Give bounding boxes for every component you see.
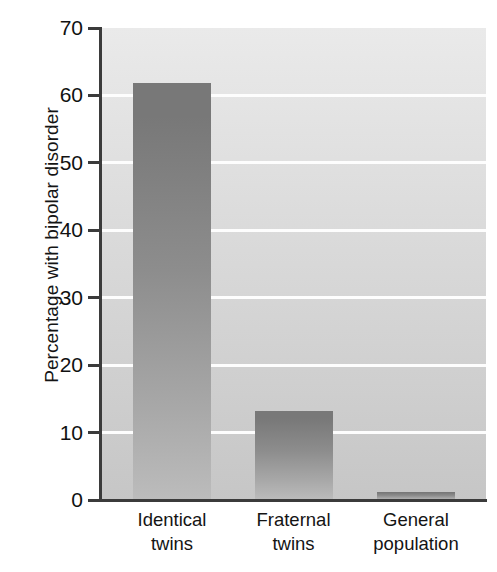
y-axis-tick-label: 50 <box>11 151 83 175</box>
category-label-line: population <box>326 532 497 556</box>
bar <box>255 411 333 500</box>
bar-chart: Percentage with bipolar disorder 0102030… <box>0 0 497 572</box>
y-axis-tick-label: 70 <box>11 16 83 40</box>
y-axis-tick-label: 60 <box>11 83 83 107</box>
y-axis-tick <box>88 94 100 97</box>
y-axis-tick-label: 20 <box>11 353 83 377</box>
x-axis-category-label: Generalpopulation <box>326 508 497 556</box>
plot-area <box>101 28 486 500</box>
bar <box>133 83 211 500</box>
y-axis-tick <box>88 229 100 232</box>
y-axis-tick <box>88 499 100 502</box>
y-axis-tick-label: 0 <box>11 488 83 512</box>
y-axis-tick-label: 40 <box>11 218 83 242</box>
y-axis-tick <box>88 431 100 434</box>
y-axis-tick-label: 10 <box>11 421 83 445</box>
x-axis-line <box>99 499 487 502</box>
y-axis-tick <box>88 27 100 30</box>
y-axis-tick <box>88 364 100 367</box>
y-axis-tick <box>88 296 100 299</box>
category-label-line: General <box>326 508 497 532</box>
y-axis-tick-label: 30 <box>11 286 83 310</box>
y-axis-tick <box>88 161 100 164</box>
